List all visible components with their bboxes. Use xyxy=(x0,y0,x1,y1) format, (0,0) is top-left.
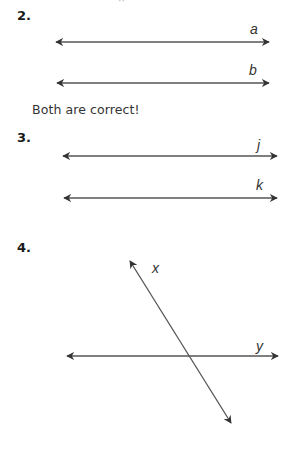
geometry-figures xyxy=(0,0,290,452)
line-x xyxy=(130,261,231,423)
